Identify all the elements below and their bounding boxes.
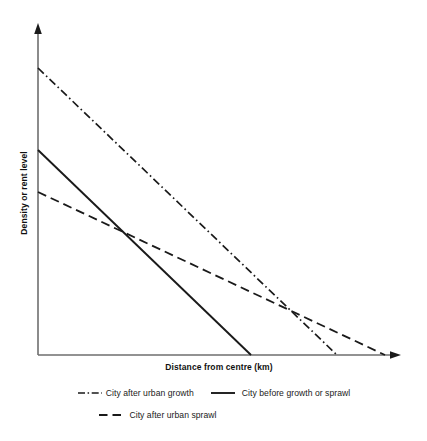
legend-label: City before growth or sprawl (242, 388, 350, 398)
y-axis (34, 23, 42, 355)
legend-item-city-after-urban-sprawl[interactable]: City after urban sprawl (98, 410, 216, 420)
legend-label: City after urban growth (106, 388, 194, 398)
y-axis-title: Density or rent level (19, 133, 29, 253)
legend-label: City after urban sprawl (129, 410, 216, 420)
legend-item-city-after-urban-growth[interactable]: City after urban growth (77, 388, 194, 398)
y-axis-arrow-icon (34, 23, 42, 34)
x-axis-arrow-icon (390, 351, 401, 359)
x-axis (38, 351, 401, 359)
legend-row: City after urban sprawl (0, 404, 427, 426)
series-line-city-after-urban-sprawl (38, 192, 385, 355)
chart-plot-area (0, 0, 427, 441)
series-line-city-before-growth-or-sprawl (38, 150, 251, 355)
legend-row: City after urban growth City before grow… (0, 382, 427, 404)
x-axis-title: Distance from centre (km) (38, 362, 400, 372)
cropped-caption-artifact (0, 436, 427, 441)
chart-figure: Density or rent level Distance from cent… (0, 0, 427, 441)
dashed-line-icon (98, 410, 124, 420)
solid-line-icon (210, 388, 236, 398)
chart-legend: City after urban growth City before grow… (0, 382, 427, 426)
dash-dot-line-icon (77, 388, 103, 398)
legend-item-city-before-growth-or-sprawl[interactable]: City before growth or sprawl (210, 388, 350, 398)
